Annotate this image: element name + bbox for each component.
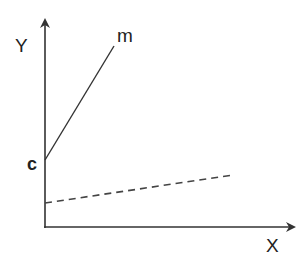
dashed-line: [45, 175, 233, 203]
y-axis-label: Y: [15, 35, 28, 56]
x-axis-label: X: [266, 235, 279, 256]
intercept-label: c: [27, 154, 37, 174]
solid-line: [45, 46, 114, 160]
slope-label: m: [117, 25, 133, 46]
graph-diagram: Y m c X: [0, 0, 306, 271]
